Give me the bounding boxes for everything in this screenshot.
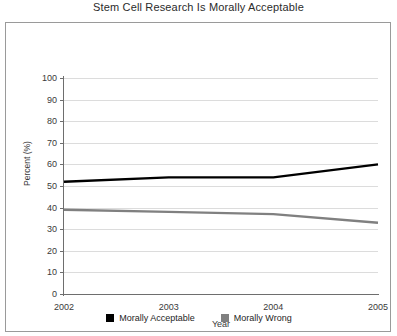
y-tick-mark [60,294,64,295]
y-tick-label: 10 [47,267,57,277]
series-lines [64,78,378,294]
figure-frame: Percent (%) 1009080706050403020100 20022… [5,22,391,332]
chart-legend: Morally AcceptableMorally Wrong [6,313,392,323]
legend-item[interactable]: Morally Acceptable [106,313,195,323]
x-tick-label: 2004 [263,302,283,312]
page-title: Stem Cell Research Is Morally Acceptable [0,1,397,13]
y-tick-label: 70 [47,138,57,148]
y-tick-label: 100 [42,73,57,83]
y-tick-label: 60 [47,159,57,169]
y-axis-title: Percent (%) [22,141,32,186]
legend-label: Morally Wrong [234,313,292,323]
x-axis-line [63,294,379,295]
series-line [64,164,378,181]
legend-item[interactable]: Morally Wrong [221,313,292,323]
y-tick-label: 80 [47,116,57,126]
x-tick-label: 2005 [368,302,388,312]
series-line [64,210,378,223]
y-tick-label: 30 [47,224,57,234]
plot-area: 1009080706050403020100 2002200320042005 … [64,78,378,294]
legend-swatch-icon [221,314,229,322]
y-tick-label: 20 [47,246,57,256]
y-tick-label: 90 [47,95,57,105]
x-tick-label: 2003 [159,302,179,312]
y-tick-label: 50 [47,181,57,191]
legend-swatch-icon [106,314,114,322]
y-tick-label: 40 [47,203,57,213]
legend-label: Morally Acceptable [119,313,195,323]
x-tick-label: 2002 [54,302,74,312]
y-tick-label: 0 [52,289,57,299]
